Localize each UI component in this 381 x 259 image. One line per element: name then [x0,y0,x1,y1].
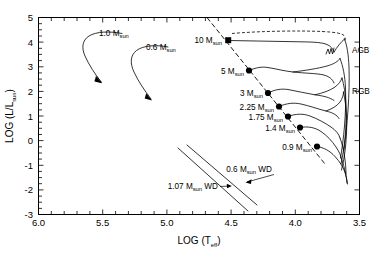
zams-point-5msun [246,67,252,73]
zams-point-3msun [265,90,271,96]
track-10msun-blueloop [232,31,345,41]
track-5msun-upper [293,59,340,73]
x-tick-label: 4.5 [224,217,237,228]
x-tick-labels: 6.0 5.5 5.0 4.5 4.0 3.5 [32,217,366,228]
annotation-post-agb-0.6msun: 0.6 Msun [146,43,176,53]
y-tick-label: 4 [28,37,33,48]
track-3msun [268,89,334,100]
leader-arrowhead-wd-0.6msun [246,179,252,184]
track-10msun [229,41,335,53]
zams-point-0.9msun [314,143,320,149]
y-tick-labels: 5 4 3 2 1 0 -1 -2 -3 [25,12,33,220]
y-tick-label: -2 [25,184,33,195]
y-tick-label: 3 [28,61,33,72]
post-agb-1.0msun-track [83,32,122,82]
track-3msun-upper [315,78,342,95]
y-tick-label: 2 [28,86,33,97]
track-0.9msun [317,147,345,172]
zams-point-2.25msun [276,103,282,109]
label-zams-1.4msun: 1.4 Msun [265,124,295,134]
x-tick-label: 5.0 [160,217,173,228]
label-agb: AGB [352,46,370,55]
post-agb-0.6msun-track [131,46,168,99]
zams-point-1.75msun [285,113,291,119]
label-zams-10msun: 10 Msun [194,36,222,46]
y-tick-label: 0 [28,135,33,146]
track-10msun-agb-tip [334,39,345,52]
zams-point-10msun [225,37,231,43]
label-zams-2.25msun: 2.25 Msun [240,103,274,113]
leader-arrowhead-wd-1.07msun [227,184,232,189]
y-axis-title: LOG (L/Lsun) [4,89,17,143]
y-tick-label: 1 [28,111,33,122]
hr-diagram-svg: 6.0 5.5 5.0 4.5 4.0 3.5 5 4 3 2 1 0 -1 -… [0,0,381,259]
label-zams-5msun: 5 Msun [221,67,244,77]
y-tick-label: -3 [25,209,33,220]
track-2.25msun-upper [326,92,344,111]
y-tick-label: -1 [25,160,33,171]
x-axis-ticks [39,18,360,215]
wd-cooling-1.07msun [178,148,248,211]
annotation-post-agb-1.0msun: 1.0 Msun [99,29,129,39]
x-tick-label: 4.0 [289,217,302,228]
svg-text:LOG (L/Lsun): LOG (L/Lsun) [4,89,17,143]
x-axis-title-main: LOG (T [177,235,210,246]
post-agb-1.0msun-arrowhead [95,76,102,83]
label-wd-1.07msun: 1.07 Msun WD [168,182,218,192]
post-agb-0.6msun-arrowhead [145,93,152,100]
x-axis-title: LOG (Teff) [177,235,220,248]
y-axis-title-close: ) [4,89,15,92]
x-axis-title-close: ) [217,235,220,246]
label-zams-1.75msun: 1.75 Msun [249,113,283,123]
track-1.4msun [300,127,342,159]
plot-frame [39,18,360,215]
x-tick-label: 5.5 [96,217,109,228]
y-axis-ticks [39,18,360,215]
y-axis-title-main: LOG (L/L [4,101,15,143]
label-zams-0.9msun: 0.9 Msun [282,143,312,153]
label-wd-0.6msun: 0.6 Msun WD [226,165,272,175]
label-zams-3msun: 3 Msun [240,89,263,99]
hr-diagram-figure: 6.0 5.5 5.0 4.5 4.0 3.5 5 4 3 2 1 0 -1 -… [0,0,381,259]
svg-text:LOG (Teff): LOG (Teff) [177,235,220,248]
track-1.75msun [288,114,340,138]
zams-point-1.4msun [297,124,303,130]
x-tick-label: 3.5 [353,217,366,228]
label-rgb: RGB [352,87,370,96]
track-5msun [249,67,334,83]
x-tick-label: 6.0 [32,217,45,228]
y-tick-label: 5 [28,12,33,23]
y-axis-title-sub: sun [11,92,17,101]
